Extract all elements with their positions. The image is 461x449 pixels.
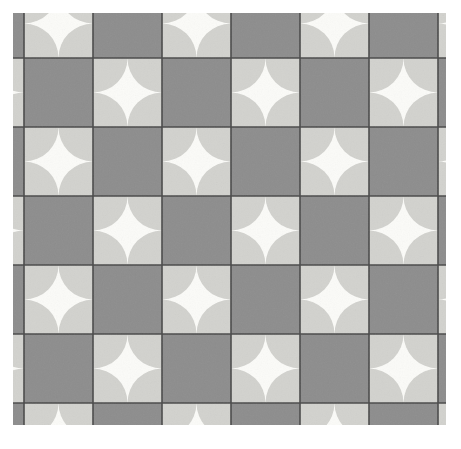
pattern-viewport — [13, 13, 446, 425]
pattern-canvas — [13, 13, 446, 425]
paper-grain-texture — [13, 13, 446, 425]
tile-pattern-figure — [0, 0, 461, 449]
